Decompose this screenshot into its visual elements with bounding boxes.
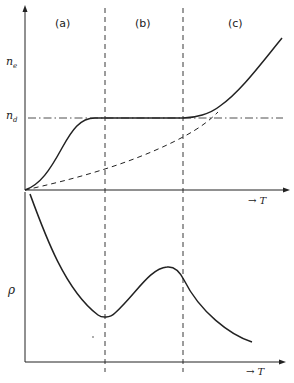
bottom-x-axis-label: → T: [246, 367, 264, 377]
ne-curve: [25, 38, 282, 190]
region-a-label: (a): [55, 18, 70, 29]
nd-label-sub: d: [13, 116, 17, 124]
bottom-x-arrow-icon: [279, 360, 286, 365]
ne-axis-label: ne: [6, 56, 17, 70]
nd-level-label: nd: [6, 110, 18, 124]
top-axes: [23, 5, 291, 193]
resistivity-curve: [30, 194, 252, 342]
bottom-axes: [25, 192, 286, 365]
rho-axis-label: ρ: [8, 284, 15, 296]
top-y-arrow-icon: [23, 5, 28, 12]
stray-mark: [92, 336, 94, 338]
diagram-canvas: [0, 0, 294, 383]
region-c-label: (c): [228, 18, 243, 29]
top-x-axis-label: → T: [248, 196, 266, 206]
dashed-intrinsic-curve: [25, 112, 218, 190]
top-x-arrow-icon: [283, 188, 290, 193]
region-b-label: (b): [135, 18, 151, 29]
ne-label-sub: e: [13, 62, 17, 70]
